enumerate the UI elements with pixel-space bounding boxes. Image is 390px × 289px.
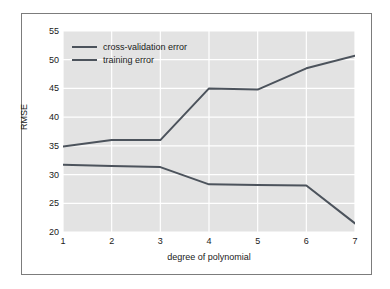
legend-line-swatch <box>72 46 97 48</box>
y-tick-label: 40 <box>33 112 59 122</box>
y-tick-label: 45 <box>33 83 59 93</box>
y-tick-label: 35 <box>33 141 59 151</box>
legend-label: cross-validation error <box>103 42 187 52</box>
x-tick-label: 5 <box>246 236 270 247</box>
y-tick-label: 25 <box>33 198 59 208</box>
chart-legend: cross-validation errortraining error <box>70 38 191 69</box>
x-axis-label: degree of polynomial <box>63 252 355 262</box>
chart-figure: 2025303540455055 1234567 degree of polyn… <box>0 0 390 289</box>
x-tick-label: 6 <box>294 236 318 247</box>
y-axis-ticks: 2025303540455055 <box>29 31 59 232</box>
x-tick-label: 1 <box>51 236 75 247</box>
x-axis-ticks: 1234567 <box>63 236 355 250</box>
x-tick-label: 2 <box>100 236 124 247</box>
x-tick-label: 4 <box>197 236 221 247</box>
x-tick-label: 7 <box>343 236 367 247</box>
legend-entry: cross-validation error <box>72 40 187 53</box>
legend-label: training error <box>103 55 154 65</box>
y-axis-label: RMSE <box>19 87 29 147</box>
x-tick-label: 3 <box>148 236 172 247</box>
legend-line-swatch <box>72 59 97 61</box>
y-tick-label: 50 <box>33 55 59 65</box>
y-tick-label: 30 <box>33 170 59 180</box>
y-tick-label: 55 <box>33 26 59 36</box>
legend-entry: training error <box>72 53 187 66</box>
